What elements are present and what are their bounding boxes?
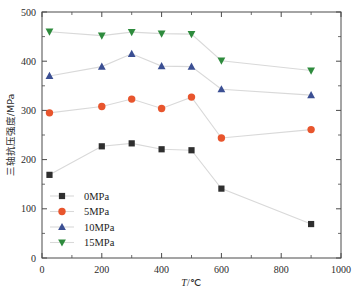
- legend-label: 5MPa: [84, 206, 109, 217]
- data-point-circle: [158, 105, 165, 112]
- data-point-circle: [218, 134, 225, 141]
- x-tick-label: 800: [274, 264, 289, 275]
- y-tick-label: 100: [21, 203, 36, 214]
- x-tick-label: 0: [40, 264, 45, 275]
- data-point-circle: [307, 126, 314, 133]
- data-point-circle: [58, 208, 65, 215]
- chart-background: [0, 0, 354, 295]
- y-axis-title: 三轴抗压强度/MPa: [5, 94, 16, 177]
- x-tick-label: 1000: [331, 264, 351, 275]
- triaxial-compressive-strength-line-chart: 02004006008001000 0100200300400500 0MPa5…: [0, 0, 354, 295]
- data-point-square: [218, 186, 224, 192]
- x-tick-label: 200: [94, 264, 109, 275]
- data-point-square: [188, 147, 194, 153]
- data-point-circle: [128, 95, 135, 102]
- y-tick-label: 400: [21, 56, 36, 67]
- legend-label: 0MPa: [84, 191, 109, 202]
- x-axis-title: T/℃: [181, 277, 200, 288]
- x-axis-title-unit: /℃: [187, 277, 201, 288]
- y-tick-label: 200: [21, 154, 36, 165]
- data-point-circle: [188, 93, 195, 100]
- y-tick-label: 0: [31, 253, 36, 264]
- data-point-square: [159, 146, 165, 152]
- y-tick-label: 300: [21, 105, 36, 116]
- chart-figure: 02004006008001000 0100200300400500 0MPa5…: [0, 0, 354, 295]
- data-point-square: [129, 140, 135, 146]
- data-point-square: [99, 143, 105, 149]
- x-tick-label: 400: [154, 264, 169, 275]
- y-tick-label: 500: [21, 7, 36, 18]
- data-point-circle: [46, 109, 53, 116]
- legend-label: 10MPa: [84, 222, 115, 233]
- data-point-circle: [98, 103, 105, 110]
- data-point-square: [308, 221, 314, 227]
- data-point-square: [46, 172, 52, 178]
- legend-label: 15MPa: [84, 237, 115, 248]
- x-tick-label: 600: [214, 264, 229, 275]
- data-point-square: [59, 193, 65, 199]
